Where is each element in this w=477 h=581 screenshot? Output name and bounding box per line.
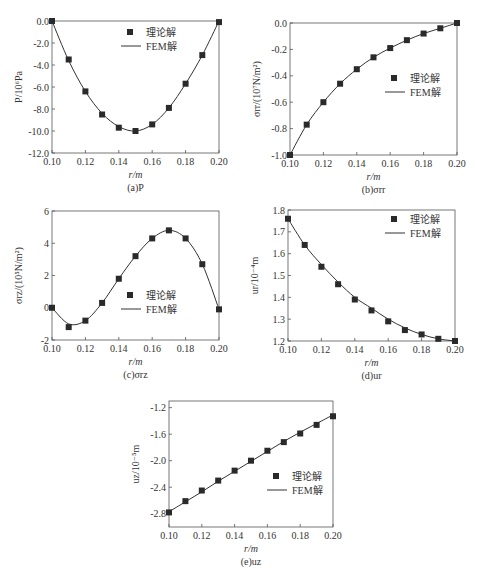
- data-point-marker: [183, 81, 189, 87]
- x-tick-label: 0.16: [259, 530, 277, 541]
- x-tick-label: 0.12: [77, 343, 95, 354]
- x-axis: 0.100.120.140.160.180.20: [43, 150, 228, 167]
- data-point-marker: [248, 458, 254, 464]
- y-axis-label: ur/10⁻⁴m: [249, 256, 260, 294]
- data-point-marker: [99, 300, 105, 306]
- x-tick-label: 0.10: [160, 530, 178, 541]
- x-tick-label: 0.20: [448, 158, 466, 169]
- y-tick-label: -1.6: [150, 429, 166, 440]
- data-point-marker: [99, 112, 105, 118]
- y-tick-label: 1.3: [273, 314, 286, 325]
- x-tick-label: 0.14: [110, 156, 128, 167]
- y-tick-label: -2.8: [150, 508, 166, 519]
- chart-d: 0.100.120.140.160.180.201.81.71.61.51.41…: [249, 205, 464, 383]
- data-point-marker: [182, 498, 188, 504]
- legend-label-theory: 理论解: [146, 289, 176, 301]
- legend: 理论解FEM解: [385, 213, 441, 239]
- data-point-marker: [82, 318, 88, 324]
- data-point-marker: [369, 307, 375, 313]
- legend-marker-icon: [391, 216, 397, 222]
- data-point-marker: [49, 18, 55, 24]
- data-point-marker: [337, 81, 343, 87]
- data-point-marker: [166, 227, 172, 233]
- y-axis-label: P/10⁶Pa: [13, 71, 24, 103]
- x-axis-label: r/m: [365, 357, 379, 368]
- data-point-marker: [183, 235, 189, 241]
- y-tick-label: -0.4: [271, 70, 287, 81]
- x-tick-label: 0.12: [193, 530, 211, 541]
- legend-label-fem: FEM解: [146, 303, 177, 315]
- legend-label-fem: FEM解: [410, 86, 441, 98]
- y-tick-label: -10.0: [28, 126, 49, 137]
- chart-caption: (b)σrr: [362, 184, 386, 196]
- y-tick-label: 1.2: [273, 336, 286, 347]
- data-point-marker: [452, 338, 458, 344]
- chart-caption: (d)ur: [362, 370, 383, 382]
- x-tick-label: 0.12: [313, 344, 331, 355]
- data-point-marker: [285, 216, 291, 222]
- x-axis-label: r/m: [129, 356, 143, 367]
- x-tick-label: 0.14: [226, 530, 244, 541]
- chart-c: 0.100.120.140.160.180.206420-2r/m(c)σrzσ…: [13, 206, 228, 382]
- x-tick-label: 0.18: [177, 156, 195, 167]
- data-point-marker: [281, 439, 287, 445]
- y-tick-label: -8.0: [33, 104, 49, 115]
- data-point-marker: [216, 19, 222, 25]
- y-tick-label: -12.0: [28, 148, 49, 159]
- y-tick-label: 1.7: [273, 226, 286, 237]
- chart-caption: (c)σrz: [123, 369, 148, 381]
- x-tick-label: 0.16: [143, 156, 161, 167]
- legend: 理论解FEM解: [121, 26, 177, 52]
- x-tick-label: 0.18: [291, 530, 309, 541]
- legend: 理论解FEM解: [121, 289, 177, 315]
- data-point-marker: [302, 242, 308, 248]
- data-point-marker: [49, 305, 55, 311]
- fem-series-line: [52, 21, 219, 131]
- legend-label-theory: 理论解: [410, 72, 440, 84]
- data-point-marker: [335, 281, 341, 287]
- x-axis-label: r/m: [129, 169, 143, 180]
- y-axis-label: σrr/(10⁷N/m²): [251, 61, 263, 117]
- x-tick-label: 0.20: [324, 530, 342, 541]
- data-point-marker: [454, 20, 460, 26]
- y-tick-label: 1.6: [273, 248, 286, 259]
- x-axis-label: r/m: [244, 543, 258, 554]
- x-axis-label: r/m: [367, 171, 381, 182]
- y-tick-label: 0.0: [275, 18, 288, 29]
- legend-label-theory: 理论解: [292, 470, 322, 482]
- data-point-marker: [232, 468, 238, 474]
- fem-series-line: [52, 230, 219, 324]
- data-point-marker: [437, 25, 443, 31]
- data-point-marker: [66, 324, 72, 330]
- y-tick-label: -4.0: [33, 60, 49, 71]
- x-tick-label: 0.16: [379, 344, 397, 355]
- y-tick-label: -0.6: [271, 97, 287, 108]
- theory-series-markers: [166, 413, 336, 515]
- data-point-marker: [318, 264, 324, 270]
- data-point-marker: [304, 122, 310, 128]
- data-point-marker: [116, 276, 122, 282]
- data-point-marker: [133, 253, 139, 259]
- x-tick-label: 0.16: [143, 343, 161, 354]
- data-point-marker: [421, 31, 427, 37]
- legend-label-fem: FEM解: [292, 484, 323, 496]
- x-axis: 0.100.120.140.160.180.20: [281, 152, 466, 169]
- y-tick-label: 1.5: [273, 270, 286, 281]
- y-tick-label: -2.0: [33, 38, 49, 49]
- data-point-marker: [199, 52, 205, 58]
- legend-marker-icon: [391, 75, 397, 81]
- x-tick-label: 0.18: [415, 158, 433, 169]
- y-axis: 0.0-2.0-4.0-6.0-8.0-10.0-12.0: [28, 16, 55, 159]
- data-point-marker: [199, 488, 205, 494]
- data-point-marker: [320, 99, 326, 105]
- data-point-marker: [149, 235, 155, 241]
- x-axis: 0.100.120.140.160.180.20: [43, 337, 228, 354]
- x-tick-label: 0.20: [210, 156, 228, 167]
- data-point-marker: [419, 331, 425, 337]
- data-point-marker: [166, 509, 172, 515]
- legend-label-fem: FEM解: [146, 40, 177, 52]
- x-tick-label: 0.18: [413, 344, 431, 355]
- data-point-marker: [133, 128, 139, 134]
- legend: 理论解FEM解: [385, 72, 441, 98]
- chart-b: 0.100.120.140.160.180.200.0-0.2-0.4-0.6-…: [251, 18, 466, 197]
